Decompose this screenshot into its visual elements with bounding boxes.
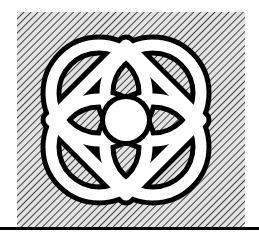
- horizontal-rule: [0, 227, 259, 230]
- logo-canvas: [0, 0, 259, 240]
- logo-figure: [0, 0, 259, 240]
- nucleus-circle: [105, 99, 147, 141]
- nucleus: [100, 94, 152, 146]
